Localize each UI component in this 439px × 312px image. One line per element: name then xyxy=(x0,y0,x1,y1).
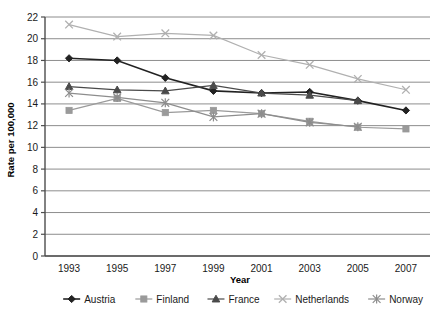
y-tick-label: 12 xyxy=(27,120,39,131)
data-point-marker-square xyxy=(162,110,168,116)
legend-label: Netherlands xyxy=(295,294,349,305)
legend-label: France xyxy=(228,294,260,305)
line-chart: 0246810121416182022 19931995199719992001… xyxy=(0,0,439,312)
y-tick-label: 2 xyxy=(32,229,38,240)
x-tick-label: 2001 xyxy=(250,263,273,274)
y-tick-label: 16 xyxy=(27,77,39,88)
chart-canvas: 0246810121416182022 19931995199719992001… xyxy=(0,0,439,312)
legend-label: Austria xyxy=(84,294,116,305)
x-tick-label: 1999 xyxy=(202,263,225,274)
x-axis-title: Year xyxy=(230,274,250,285)
legend-label: Norway xyxy=(389,294,423,305)
x-tick-label: 1995 xyxy=(106,263,129,274)
y-tick-label: 20 xyxy=(27,33,39,44)
data-point-marker-square xyxy=(141,296,147,302)
x-tick-label: 1997 xyxy=(154,263,177,274)
data-point-marker-square xyxy=(66,107,72,113)
y-tick-label: 22 xyxy=(27,12,39,23)
y-tick-label: 18 xyxy=(27,55,39,66)
x-tick-label: 2007 xyxy=(395,263,418,274)
legend-item-norway[interactable]: Norway xyxy=(368,294,423,305)
y-tick-label: 4 xyxy=(32,207,38,218)
y-tick-label: 0 xyxy=(32,251,38,262)
x-tick-label: 2003 xyxy=(299,263,322,274)
x-tick-label: 2005 xyxy=(347,263,370,274)
legend-label: Finland xyxy=(156,294,189,305)
y-tick-label: 14 xyxy=(27,98,39,109)
y-tick-label: 8 xyxy=(32,164,38,175)
data-point-marker-square xyxy=(403,126,409,132)
y-tick-label: 6 xyxy=(32,185,38,196)
x-tick-label: 1993 xyxy=(58,263,81,274)
y-axis-title: Rate per 100,000 xyxy=(5,103,16,178)
y-tick-label: 10 xyxy=(27,142,39,153)
